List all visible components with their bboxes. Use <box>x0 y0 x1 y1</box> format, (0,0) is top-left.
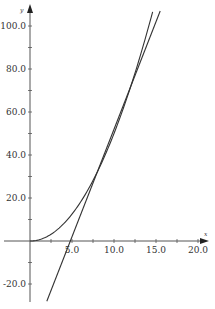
y-tick-label: 60.0 <box>6 107 26 117</box>
tangent-line <box>47 11 160 301</box>
y-tick-label: 80.0 <box>6 64 26 74</box>
x-axis-arrow-icon <box>200 238 209 244</box>
plot-series <box>30 11 160 301</box>
y-tick-label: -20.0 <box>3 279 26 289</box>
y-axis-arrow-icon <box>27 4 33 13</box>
y-tick-label: 40.0 <box>6 150 26 160</box>
y-tick-label: 100.0 <box>0 21 26 31</box>
x-tick-label: 10.0 <box>104 245 124 255</box>
x-tick-label: 20.0 <box>188 245 208 255</box>
parabola-curve <box>30 12 153 241</box>
x-axis-label: x <box>204 230 208 237</box>
y-axis-ticks: -20.020.040.060.080.0100.0 <box>0 21 32 289</box>
y-tick-label: 20.0 <box>6 193 26 203</box>
x-tick-label: 15.0 <box>146 245 166 255</box>
chart: -20.020.040.060.080.0100.0 5.010.015.020… <box>0 0 215 309</box>
y-axis-label: y <box>19 6 24 14</box>
